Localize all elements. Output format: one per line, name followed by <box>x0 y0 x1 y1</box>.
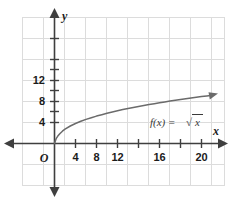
y-tick-label-4: 4 <box>39 116 46 128</box>
x-tick-label-8: 8 <box>93 151 99 163</box>
function-annotation: f(x) = √ x <box>150 115 203 130</box>
x-axis-label: x <box>212 124 219 138</box>
x-tick-label-12: 12 <box>111 151 123 163</box>
arrow-right-icon <box>218 139 228 149</box>
radicand-text: x <box>194 116 200 128</box>
x-tick-labels: 4 8 12 16 20 <box>72 151 207 163</box>
arrow-left-icon <box>4 139 14 149</box>
y-tick-label-12: 12 <box>33 74 45 86</box>
y-axis-label: y <box>60 9 68 23</box>
axis-arrowheads <box>4 8 228 197</box>
coordinate-plane-svg: 4 8 12 16 20 4 8 12 y x O f(x) = √ x <box>0 0 236 201</box>
x-tick-label-4: 4 <box>72 151 79 163</box>
origin-label: O <box>40 151 49 165</box>
curve-arrowhead-icon <box>209 92 219 99</box>
arrow-up-icon <box>50 8 60 18</box>
x-tick-label-16: 16 <box>153 151 165 163</box>
graph-figure: 4 8 12 16 20 4 8 12 y x O f(x) = √ x <box>0 0 236 201</box>
arrow-down-icon <box>50 187 60 197</box>
radical-sign: √ <box>186 116 193 128</box>
function-label-text: f(x) = <box>150 116 175 129</box>
function-curve <box>55 92 219 143</box>
x-tick-label-20: 20 <box>195 151 207 163</box>
y-tick-label-8: 8 <box>39 95 45 107</box>
